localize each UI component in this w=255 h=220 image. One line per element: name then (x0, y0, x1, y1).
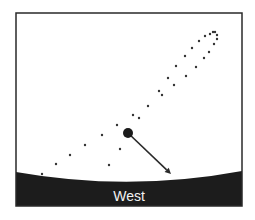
path-dot (167, 77, 169, 79)
path-dot (208, 51, 210, 53)
planet-marker (123, 128, 133, 138)
path-dot (214, 31, 216, 33)
path-dot (41, 173, 43, 175)
path-dot (216, 38, 218, 40)
path-dot (185, 75, 187, 77)
path-dot (198, 40, 200, 42)
path-dot (161, 94, 163, 96)
path-dot (101, 134, 103, 136)
path-dot (84, 144, 86, 146)
path-dot (203, 57, 205, 59)
path-dot (138, 117, 140, 119)
horizon-label-west: West (16, 188, 242, 204)
path-dot (216, 34, 218, 36)
path-dot (204, 35, 206, 37)
path-dot (173, 84, 175, 86)
path-dot (69, 154, 71, 156)
path-dot (108, 164, 110, 166)
path-dot (175, 65, 177, 67)
path-dot (119, 148, 121, 150)
path-dot (191, 47, 193, 49)
path-dot (116, 124, 118, 126)
path-dot (209, 33, 211, 35)
path-dot (132, 114, 134, 116)
planet-path-diagram (0, 0, 255, 220)
path-dot (195, 66, 197, 68)
path-dot (55, 163, 57, 165)
path-dot (213, 43, 215, 45)
path-dot (147, 105, 149, 107)
path-dot (184, 55, 186, 57)
path-dot (158, 90, 160, 92)
